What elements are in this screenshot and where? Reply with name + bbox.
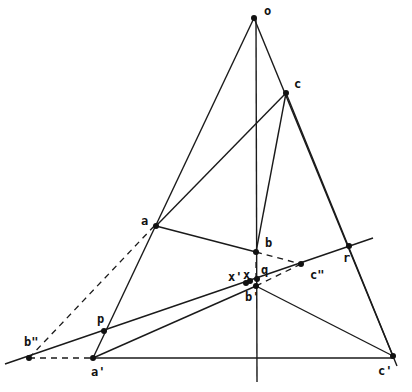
point-p — [101, 328, 107, 334]
point-q — [254, 276, 260, 282]
line-a-b — [156, 226, 256, 252]
label-c2: c" — [310, 268, 324, 282]
line-b1-c1 — [256, 286, 393, 356]
point-c — [283, 90, 289, 96]
label-r: r — [343, 251, 350, 265]
line-c-b — [256, 93, 286, 252]
points — [26, 15, 396, 361]
dashed-lines — [29, 222, 301, 358]
line-c-c1 — [286, 93, 393, 356]
point-b1 — [253, 283, 259, 289]
point-o — [251, 15, 257, 21]
label-c: c — [294, 77, 301, 91]
geometry-diagram: ocabrc"qxx'b'pb"a'c' — [0, 0, 412, 392]
line-axis-b2-r — [5, 238, 373, 364]
point-a1 — [90, 355, 96, 361]
point-c2 — [298, 261, 304, 267]
line-a1-b1 — [93, 286, 256, 358]
point-b2 — [26, 355, 32, 361]
label-q: q — [261, 263, 268, 277]
label-a: a — [141, 214, 148, 228]
point-c1 — [390, 353, 396, 359]
label-o: o — [264, 4, 271, 18]
point-b — [253, 249, 259, 255]
label-a1: a' — [91, 365, 105, 379]
label-b2: b" — [24, 335, 38, 349]
line-vertical-axis — [256, 18, 257, 382]
label-b: b — [265, 236, 272, 250]
label-p: p — [97, 312, 104, 326]
solid-lines — [5, 18, 397, 382]
label-x1: x' — [228, 270, 242, 284]
label-b1: b' — [245, 290, 259, 304]
point-labels: ocabrc"qxx'b'pb"a'c' — [24, 4, 392, 379]
label-c1: c' — [378, 364, 392, 378]
label-x: x — [243, 268, 250, 282]
line-a-c — [156, 93, 286, 226]
point-a — [153, 223, 159, 229]
point-r — [346, 243, 352, 249]
